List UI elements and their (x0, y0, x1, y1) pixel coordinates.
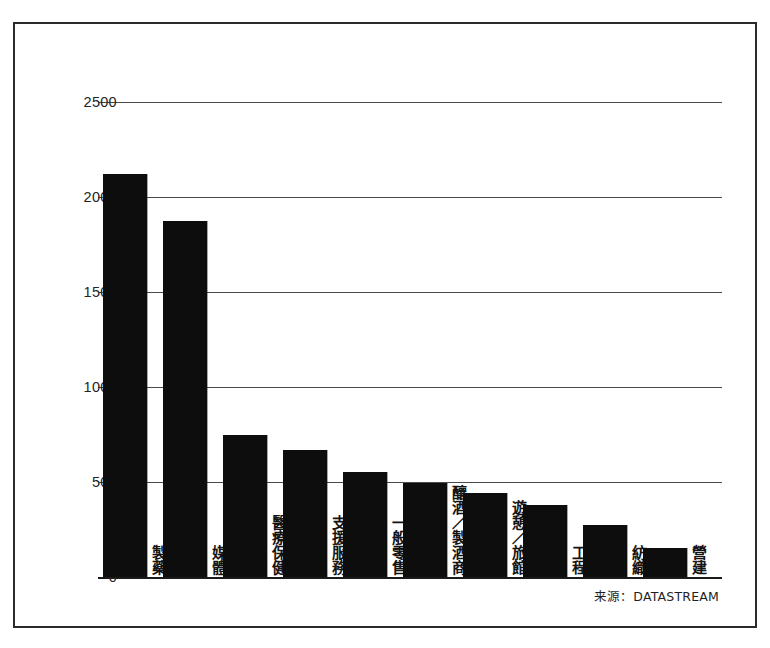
bars-layer: 製藥媒體醫療保健支援服務一般零售釀酒／製酒商遊憩／旅館工程紡織營建 (15, 24, 759, 630)
bar (643, 548, 687, 577)
bar (103, 174, 147, 577)
bar-chart-plot-area: 05001000150020002500 製藥媒體醫療保健支援服務一般零售釀酒／… (15, 24, 759, 630)
bar-group (283, 450, 327, 577)
bar-group (103, 174, 147, 577)
bar (583, 525, 627, 577)
bar-group (523, 505, 567, 577)
bar (223, 435, 267, 577)
bar (463, 493, 507, 577)
bar-category-label: 營建 (690, 545, 706, 575)
bar-group (403, 483, 447, 577)
bar (523, 505, 567, 577)
bar-group (643, 548, 687, 577)
bar (403, 483, 447, 577)
source-note: 来源：DATASTREAM (594, 586, 719, 605)
bar (163, 221, 207, 577)
bar (283, 450, 327, 577)
bar-group (463, 493, 507, 577)
bar-group (223, 435, 267, 577)
figure-frame: 05001000150020002500 製藥媒體醫療保健支援服務一般零售釀酒／… (13, 22, 757, 628)
bar-group (163, 221, 207, 577)
bar-group (583, 525, 627, 577)
bar (343, 472, 387, 577)
bar-group (343, 472, 387, 577)
